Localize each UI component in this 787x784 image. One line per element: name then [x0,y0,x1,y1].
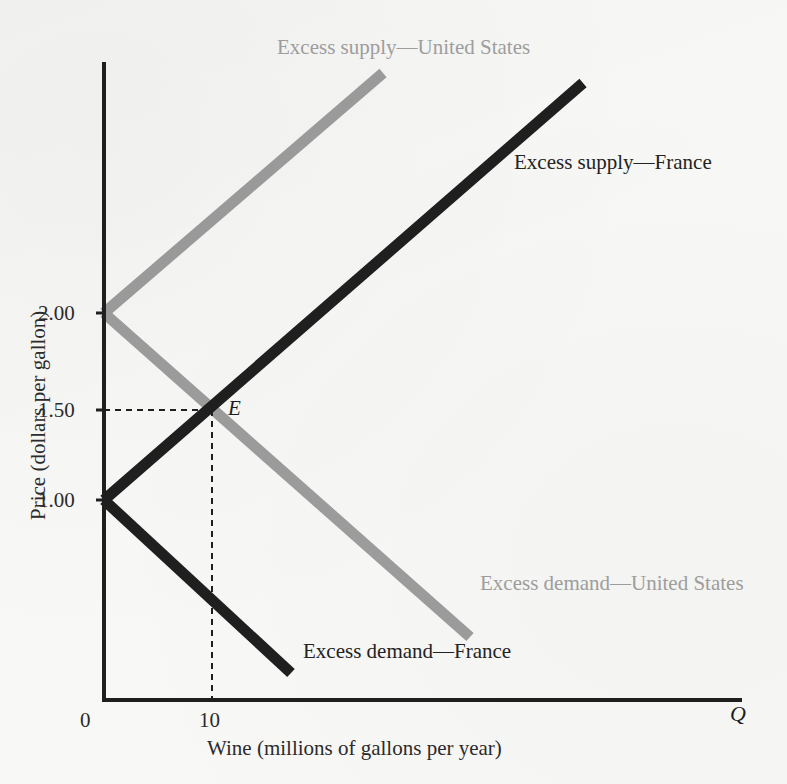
y-tick-label-100: 1.00 [38,490,75,511]
y-tick-label-200: 2.00 [38,303,75,324]
label-excess-supply-us: Excess supply—United States [277,37,530,58]
curve-excess-demand-france[interactable] [104,500,291,673]
curve-excess-demand-us[interactable] [104,313,470,637]
label-excess-demand-us: Excess demand—United States [480,573,744,594]
origin-label: 0 [80,710,91,731]
equilibrium-point-label: E [228,398,241,419]
x-axis-variable-label: Q [730,703,746,725]
x-tick-label-10: 10 [199,710,220,731]
label-excess-supply-france: Excess supply—France [514,152,712,173]
chart-canvas [0,0,787,784]
label-excess-demand-france: Excess demand—France [303,641,511,662]
y-tick-label-150: 1.50 [38,400,75,421]
curve-excess-supply-france[interactable] [104,83,583,500]
x-axis-title: Wine (millions of gallons per year) [207,738,502,759]
curve-excess-supply-us[interactable] [104,73,383,313]
figure-container: Price (dollars per gallon) 2.00 1.50 1.0… [0,0,787,784]
